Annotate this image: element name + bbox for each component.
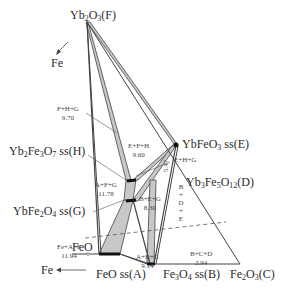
edge-f-a2	[87, 22, 101, 254]
marker-g	[126, 200, 136, 201]
label-fe2o3-c: Fe2O3(C)	[230, 268, 275, 282]
band-a-g	[99, 200, 133, 254]
label-fe3o4-ss-b: Fe3O4 ss(B)	[163, 268, 220, 282]
label-yb2o3-f: Yb2O3(F)	[70, 9, 116, 23]
band-h-f	[86, 22, 131, 180]
arrow-fe-bottom-head	[56, 268, 61, 273]
region-bcd: B+C+D2.94	[190, 251, 212, 267]
region-fhg: F+H+G9.70	[57, 106, 79, 122]
region-afg: A+F+G11.78	[95, 182, 117, 198]
band-f-e	[87, 22, 177, 144]
region-bde: B+D+E	[177, 183, 185, 223]
phase-diagram: Yb2O3(F) Fe Yb2Fe3O7 ss(H) YbFe2O4 ss(G)…	[0, 0, 285, 298]
label-yb2fe3o7-h: Yb2Fe3O7 ss(H)	[9, 145, 85, 159]
label-ybfe2o4-g: YbFe2O4 ss(G)	[13, 205, 85, 219]
band-g-h	[124, 180, 136, 200]
region-feaf: Fe+A+F11.94	[57, 244, 81, 260]
band-b	[147, 180, 156, 264]
label-ybfeo3-e: YbFeO3 ss(E)	[182, 138, 249, 152]
region-beg: B+E+G8.30	[139, 196, 161, 212]
marker-h	[127, 180, 136, 181]
dashed-line	[85, 222, 226, 238]
marker-e	[174, 143, 179, 148]
label-fe-top: Fe	[51, 57, 63, 69]
label-fe-bottom: Fe	[41, 264, 53, 276]
region-abg: A+B+G9.14	[136, 254, 159, 270]
region-efh: E+F+H9.60	[128, 143, 149, 159]
label-yb3fe5o12-d: Yb3Fe5O12(D)	[186, 176, 254, 190]
region-547: 5.47	[163, 160, 170, 172]
region-ehg: E+H+G	[174, 157, 196, 164]
